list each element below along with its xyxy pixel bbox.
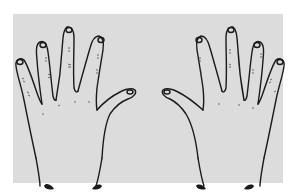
wrist-marks: [44, 184, 254, 189]
left-hand: [16, 27, 136, 186]
hands-illustration: [0, 0, 297, 195]
right-hand: [162, 27, 284, 186]
